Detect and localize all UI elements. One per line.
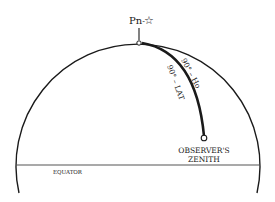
celestial-diagram: Pn- ☆ 90° – Ho 90° – LAT OBSERVER'S ZENI… [0,0,275,202]
pole-point-icon [137,41,141,45]
zenith-label-line1: OBSERVER'S [178,146,229,155]
zenith-point-icon [201,135,207,141]
pole-label: Pn- [129,15,145,26]
equator-label: EQUATOR [53,169,83,175]
zenith-label-line2: ZENITH [188,155,220,164]
star-icon: ☆ [144,14,154,27]
